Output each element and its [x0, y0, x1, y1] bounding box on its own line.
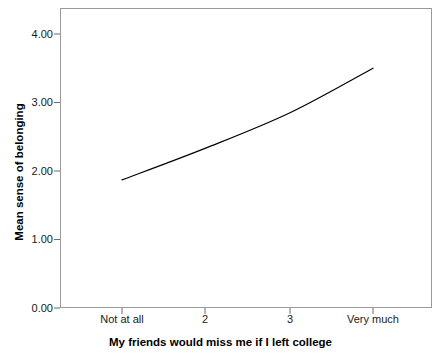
y-tick-label-4: 4.00: [7, 29, 53, 40]
chart-figure: 4.00 3.00 2.00 1.00 0.00 Mean sense of b…: [0, 0, 441, 356]
y-axis-title: Mean sense of belonging: [13, 57, 25, 287]
x-tick-label-very-much: Very much: [318, 313, 428, 326]
x-axis-title: My friends would miss me if I left colle…: [0, 336, 441, 348]
y-axis-tick-labels: 4.00 3.00 2.00 1.00 0.00: [0, 0, 53, 356]
y-tick-label-0: 0.00: [7, 303, 53, 314]
plot-area: [60, 8, 432, 308]
